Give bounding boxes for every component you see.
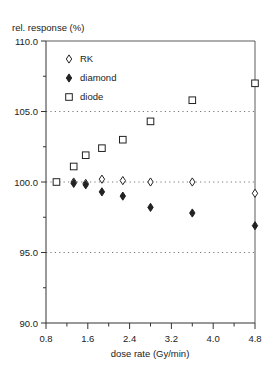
open-square-marker	[82, 152, 89, 159]
filled-diamond-marker	[120, 192, 125, 200]
legend: RKdiamonddiode	[66, 53, 117, 102]
filled-diamond-marker	[148, 203, 153, 211]
x-axis-ticks: 0.81.62.43.24.04.8	[39, 323, 261, 344]
open-square-marker	[120, 136, 127, 143]
filled-diamond-icon	[66, 74, 71, 82]
open-square-marker	[99, 145, 106, 152]
x-tick-label: 2.4	[123, 333, 136, 344]
open-square-marker	[70, 163, 77, 170]
open-diamond-marker	[190, 178, 195, 186]
legend-item-diamond: diamond	[66, 72, 116, 83]
x-tick-label: 4.8	[248, 333, 261, 344]
scatter-chart: rel. response (%) 90.095.0100.0105.0110.…	[0, 0, 273, 385]
x-tick-label: 4.0	[207, 333, 220, 344]
x-tick-label: 1.6	[81, 333, 94, 344]
open-square-icon	[66, 94, 73, 101]
series-diamond	[71, 179, 258, 230]
y-tick-label: 105.0	[14, 106, 38, 117]
open-square-marker	[147, 118, 154, 125]
y-tick-label: 100.0	[14, 177, 38, 188]
filled-diamond-marker	[190, 209, 195, 217]
filled-diamond-marker	[252, 222, 257, 230]
open-square-marker	[189, 97, 196, 104]
legend-item-diode: diode	[66, 91, 104, 102]
y-axis-ticks: 90.095.0100.0105.0110.0	[14, 36, 46, 329]
y-tick-label: 90.0	[20, 318, 39, 329]
open-diamond-icon	[66, 55, 71, 63]
legend-label: diamond	[80, 72, 116, 83]
open-square-marker	[53, 179, 60, 186]
legend-label: RK	[80, 53, 94, 64]
open-diamond-marker	[120, 176, 125, 184]
data-points	[53, 80, 258, 230]
x-tick-label: 3.2	[165, 333, 178, 344]
y-axis-label: rel. response (%)	[12, 22, 84, 33]
filled-diamond-marker	[99, 188, 104, 196]
y-tick-label: 110.0	[15, 36, 38, 47]
open-diamond-marker	[148, 178, 153, 186]
open-square-marker	[252, 80, 259, 87]
legend-item-rk: RK	[66, 53, 94, 64]
legend-label: diode	[80, 91, 103, 102]
series-rk	[71, 175, 258, 197]
x-tick-label: 0.8	[39, 333, 52, 344]
open-diamond-marker	[252, 189, 257, 197]
y-tick-label: 95.0	[20, 247, 39, 258]
x-axis-label: dose rate (Gy/min)	[111, 348, 190, 359]
